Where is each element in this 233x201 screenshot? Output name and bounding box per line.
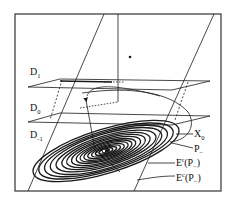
phase-diagram: D1 D0 D-1 X0 P− Er(P−) Ec(P−) bbox=[0, 0, 233, 201]
label-center-manifold: Ec(P−) bbox=[176, 171, 201, 185]
label-d1: D1 bbox=[30, 66, 40, 79]
diagram-canvas: D1 D0 D-1 X0 P− Er(P−) Ec(P−) bbox=[0, 0, 233, 201]
label-d-minus-1: D-1 bbox=[30, 129, 43, 142]
label-unstable-manifold: Er(P−) bbox=[176, 156, 200, 170]
plane-d1 bbox=[28, 79, 210, 90]
label-x0: X0 bbox=[194, 128, 204, 141]
fixed-point-dot bbox=[129, 56, 132, 59]
spiral bbox=[27, 108, 185, 195]
plane-d0 bbox=[28, 113, 210, 125]
label-d0: D0 bbox=[30, 102, 40, 115]
label-p-minus: P− bbox=[194, 143, 204, 156]
